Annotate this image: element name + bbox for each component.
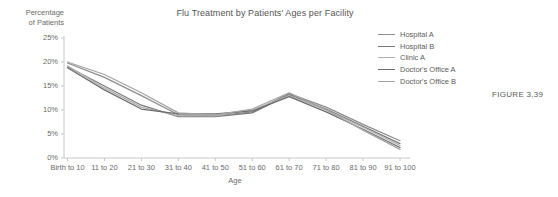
y-axis-tick-label: 0% bbox=[22, 154, 58, 162]
chart-legend: Hospital AHospital BClinic ADoctor's Off… bbox=[378, 29, 456, 87]
plot-area: 0%5%10%15%20%25% Birth to 1011 to 2021 t… bbox=[0, 0, 558, 197]
y-axis-tick-label: 25% bbox=[22, 34, 58, 42]
x-axis-title: Age bbox=[66, 176, 404, 185]
figure-container: Percentage of Patients Flu Treatment by … bbox=[0, 0, 558, 197]
series-line-1 bbox=[68, 67, 401, 144]
legend-swatch-icon bbox=[378, 81, 395, 82]
y-axis-tick-label: 20% bbox=[22, 58, 58, 66]
series-line-2 bbox=[68, 66, 401, 146]
legend-item-0[interactable]: Hospital A bbox=[378, 29, 456, 41]
legend-item-4[interactable]: Doctor's Office B bbox=[378, 75, 456, 87]
figure-caption: FIGURE 3.39 bbox=[492, 90, 543, 99]
legend-label: Clinic A bbox=[400, 53, 425, 62]
series-line-3 bbox=[68, 68, 401, 148]
legend-item-1[interactable]: Hospital B bbox=[378, 41, 456, 53]
legend-label: Doctor's Office B bbox=[400, 77, 456, 86]
series-line-0 bbox=[68, 63, 401, 141]
legend-swatch-icon bbox=[378, 34, 395, 35]
y-axis-tick-label: 10% bbox=[22, 106, 58, 114]
y-axis-tick-label: 15% bbox=[22, 82, 58, 90]
y-axis-tick-label: 5% bbox=[22, 130, 58, 138]
legend-item-3[interactable]: Doctor's Office A bbox=[378, 64, 456, 76]
legend-swatch-icon bbox=[378, 69, 395, 70]
legend-item-2[interactable]: Clinic A bbox=[378, 52, 456, 64]
legend-swatch-icon bbox=[378, 57, 395, 58]
legend-label: Hospital A bbox=[400, 30, 434, 39]
series-line-4 bbox=[68, 62, 401, 149]
legend-label: Hospital B bbox=[400, 42, 434, 51]
legend-swatch-icon bbox=[378, 46, 395, 47]
legend-label: Doctor's Office A bbox=[400, 65, 455, 74]
x-axis-tick-label: 91 to 100 bbox=[370, 164, 430, 172]
